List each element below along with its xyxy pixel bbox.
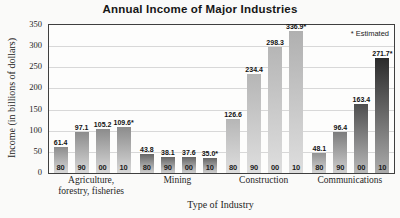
y-tick-label: 350 xyxy=(29,19,42,29)
bar: 38.190 xyxy=(161,157,175,173)
bar: 48.180 xyxy=(312,153,326,173)
bar: 234.490 xyxy=(247,74,261,173)
bar-value-label: 234.4 xyxy=(245,66,263,73)
bar-value-label: 163.4 xyxy=(353,96,371,103)
y-tick-label: 50 xyxy=(34,146,43,156)
bar: 109.6*10 xyxy=(117,127,131,173)
plot-area: * Estimated 61.48097.190105.200109.6*104… xyxy=(48,24,395,174)
bar-value-label: 126.6 xyxy=(224,111,242,118)
bar-year-label: 10 xyxy=(117,163,131,172)
bar-year-label: 80 xyxy=(54,163,68,172)
bar-value-label: 48.1 xyxy=(313,145,327,152)
bar-value-label: 61.4 xyxy=(54,139,68,146)
bar-fill xyxy=(289,31,303,173)
y-tick-label: 100 xyxy=(29,125,42,135)
bar-year-label: 80 xyxy=(140,163,154,172)
bar-year-label: 00 xyxy=(354,163,368,172)
bar-year-label: 90 xyxy=(247,163,261,172)
y-tick-label: 250 xyxy=(29,61,42,71)
bar-year-label: 00 xyxy=(96,163,110,172)
bar-year-label: 10 xyxy=(289,163,303,172)
y-axis-ticks: 050100150200250300350 xyxy=(0,24,45,172)
bar-value-label: 97.1 xyxy=(75,124,89,131)
bar-value-label: 271.7* xyxy=(372,50,392,57)
x-axis-title: Type of Industry xyxy=(48,199,393,210)
category-label: Mining xyxy=(134,175,220,198)
category-label-line: forestry, fisheries xyxy=(48,186,134,197)
bar-year-label: 10 xyxy=(203,163,217,172)
category-label: Construction xyxy=(221,175,307,198)
bar: 163.400 xyxy=(354,104,368,173)
bar-group-construction: 126.680234.490298.300336.9*10 xyxy=(222,25,308,173)
y-tick-label: 300 xyxy=(29,40,42,50)
bar-group-communications: 48.18096.490163.400271.7*10 xyxy=(308,25,394,173)
y-tick-label: 0 xyxy=(38,167,42,177)
x-category-labels: Agriculture,forestry, fisheriesMiningCon… xyxy=(48,175,393,198)
bar-value-label: 298.3 xyxy=(266,39,284,46)
bar-fill xyxy=(268,47,282,173)
chart-figure: Annual Income of Major Industries Income… xyxy=(0,0,400,218)
bar: 271.7*10 xyxy=(375,58,389,173)
bar: 35.0*10 xyxy=(203,158,217,173)
bar: 96.490 xyxy=(333,132,347,173)
y-tick-label: 150 xyxy=(29,104,42,114)
bar: 105.200 xyxy=(96,129,110,173)
category-label: Communications xyxy=(307,175,393,198)
bar-year-label: 90 xyxy=(75,163,89,172)
bar: 61.480 xyxy=(54,147,68,173)
bar-groups: 61.48097.190105.200109.6*1043.88038.1903… xyxy=(49,25,394,173)
bar: 37.600 xyxy=(182,157,196,173)
bar-fill xyxy=(375,58,389,173)
bar-group-mining: 43.88038.19037.60035.0*10 xyxy=(135,25,221,173)
category-label: Agriculture,forestry, fisheries xyxy=(48,175,134,198)
bar-year-label: 00 xyxy=(182,163,196,172)
bar-value-label: 35.0* xyxy=(202,150,218,157)
bar-year-label: 00 xyxy=(268,163,282,172)
bar: 126.680 xyxy=(226,119,240,173)
bar: 336.9*10 xyxy=(289,31,303,173)
bar-value-label: 109.6* xyxy=(114,119,134,126)
bar-value-label: 43.8 xyxy=(140,146,154,153)
category-label-line: Communications xyxy=(307,175,393,186)
bar-value-label: 336.9* xyxy=(286,23,306,30)
bar-year-label: 80 xyxy=(226,163,240,172)
legend-estimated-note: * Estimated xyxy=(351,29,389,38)
bar-group-agriculture: 61.48097.190105.200109.6*10 xyxy=(49,25,135,173)
bar: 43.880 xyxy=(140,154,154,173)
bar: 298.300 xyxy=(268,47,282,173)
bar-value-label: 105.2 xyxy=(94,121,112,128)
bar-year-label: 80 xyxy=(312,163,326,172)
category-label-line: Mining xyxy=(134,175,220,186)
bar-year-label: 10 xyxy=(375,163,389,172)
bar-year-label: 90 xyxy=(333,163,347,172)
bar-value-label: 96.4 xyxy=(334,124,348,131)
chart-title: Annual Income of Major Industries xyxy=(0,3,400,15)
bar-value-label: 37.6 xyxy=(182,149,196,156)
bar-year-label: 90 xyxy=(161,163,175,172)
bar-fill xyxy=(247,74,261,173)
bar: 97.190 xyxy=(75,132,89,173)
bar-value-label: 38.1 xyxy=(161,149,175,156)
category-label-line: Agriculture, xyxy=(48,175,134,186)
y-tick-label: 200 xyxy=(29,82,42,92)
category-label-line: Construction xyxy=(221,175,307,186)
